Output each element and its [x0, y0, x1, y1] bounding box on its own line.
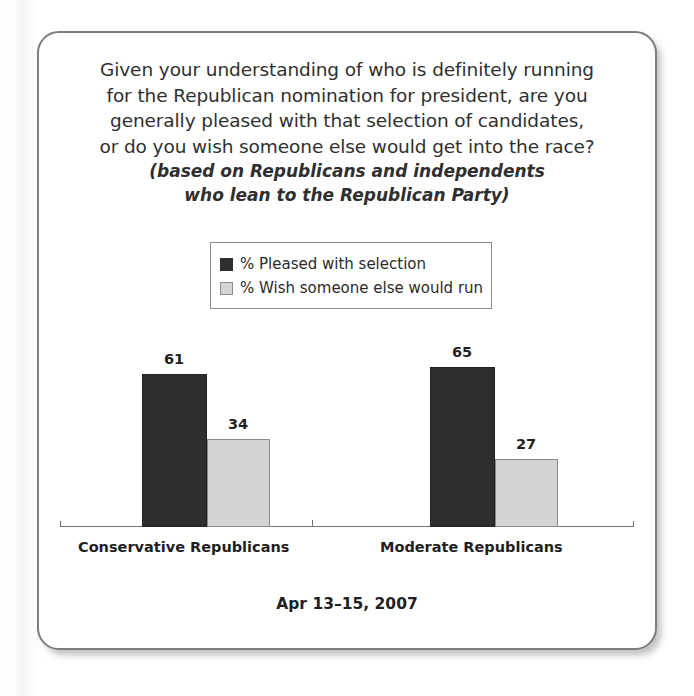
bar-conservative-pleased[interactable] [142, 374, 207, 527]
legend-swatch-icon-pleased [220, 258, 233, 271]
title-line-2: for the Republican nomination for presid… [39, 83, 655, 109]
bar-moderate-pleased[interactable] [430, 367, 495, 527]
survey-date-label: Apr 13–15, 2007 [39, 595, 655, 613]
bar-moderate-wish[interactable] [495, 459, 558, 527]
subtitle-line-1: (based on Republicans and independents [39, 159, 655, 183]
category-label-conservative: Conservative Republicans [78, 539, 270, 555]
legend-entry-pleased: % Pleased with selection [220, 252, 491, 276]
title-line-4: or do you wish someone else would get in… [39, 134, 655, 160]
bar-value-moderate-pleased: 65 [430, 344, 494, 360]
legend-entry-wish: % Wish someone else would run [220, 276, 491, 300]
x-axis-right-cap [633, 521, 634, 527]
bar-conservative-wish[interactable] [207, 439, 270, 527]
bar-value-conservative-pleased: 61 [142, 351, 206, 367]
x-axis-left-cap [60, 521, 61, 527]
title-line-1: Given your understanding of who is defin… [39, 57, 655, 83]
chart-legend: % Pleased with selection % Wish someone … [210, 242, 492, 309]
x-axis-center-tick [312, 520, 313, 527]
legend-swatch-icon-wish [220, 282, 233, 295]
chart-title-block: Given your understanding of who is defin… [39, 57, 655, 207]
legend-label-wish: % Wish someone else would run [240, 279, 483, 297]
subtitle-line-2: who lean to the Republican Party) [39, 183, 655, 207]
chart-card: Given your understanding of who is defin… [37, 31, 657, 650]
category-label-moderate: Moderate Republicans [380, 539, 558, 555]
title-line-3: generally pleased with that selection of… [39, 108, 655, 134]
legend-label-pleased: % Pleased with selection [240, 255, 426, 273]
bar-value-moderate-wish: 27 [494, 436, 558, 452]
bar-value-conservative-wish: 34 [206, 416, 270, 432]
